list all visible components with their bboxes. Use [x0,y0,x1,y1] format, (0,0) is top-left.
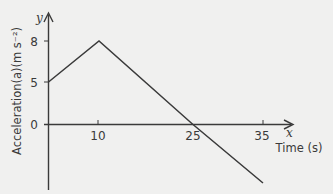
x-tick-label-10: 10 [90,129,105,143]
acceleration-line [49,41,264,183]
x-axis-title: Time (s) [275,141,323,155]
y-axis-title: Acceleration(a)(m s⁻²) [10,27,24,155]
chart: 8 5 0 10 25 35 y x Time (s) Acceleration… [0,0,333,194]
y-axis-var-label: y [35,11,43,25]
x-axis-var-label: x [286,126,293,140]
x-tick-label-25: 25 [185,129,200,143]
y-tick-label-5: 5 [30,76,38,90]
y-tick-label-8: 8 [30,35,38,49]
x-tick-label-35: 35 [254,129,269,143]
y-tick-label-0: 0 [30,118,38,132]
